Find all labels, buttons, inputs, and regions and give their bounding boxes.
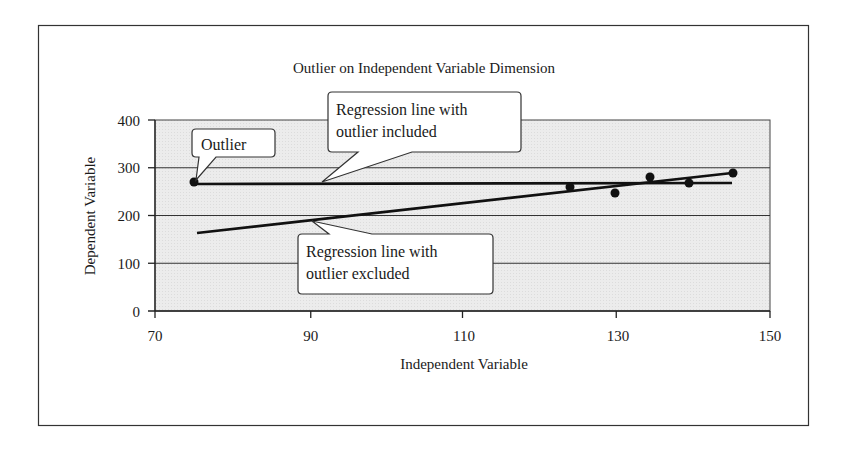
chart-title: Outlier on Independent Variable Dimensio… [293, 60, 556, 76]
callout-outlier-text: Outlier [201, 136, 247, 153]
callout-excluded-text-2: outlier excluded [306, 265, 410, 282]
callout-included-text-2: outlier included [336, 123, 437, 140]
callout-included-text-1: Regression line with [336, 101, 468, 119]
y-tick-label: 300 [118, 160, 141, 176]
x-axis-label: Independent Variable [400, 356, 528, 372]
data-point [729, 169, 738, 178]
y-tick-label: 400 [118, 113, 141, 129]
x-tick-label: 150 [759, 328, 782, 344]
x-tick-label: 90 [303, 328, 318, 344]
x-tick-label: 70 [148, 328, 163, 344]
data-point [611, 189, 620, 198]
x-tick-label: 110 [453, 328, 475, 344]
y-tick-label: 200 [118, 208, 141, 224]
data-point [566, 183, 575, 192]
y-tick-label: 100 [118, 256, 141, 272]
callout-excluded-text-1: Regression line with [306, 243, 438, 261]
data-point [685, 179, 694, 188]
data-point [646, 173, 655, 182]
x-tick-label: 130 [607, 328, 630, 344]
y-axis-label: Dependent Variable [82, 156, 98, 275]
y-tick-label: 0 [133, 304, 141, 320]
chart: Outlier on Independent Variable Dimensio… [0, 0, 848, 453]
